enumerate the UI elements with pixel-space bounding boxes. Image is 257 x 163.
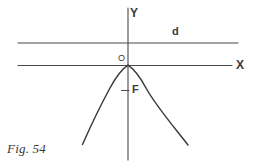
y-axis-label: Y (130, 7, 138, 19)
x-axis-label: X (236, 59, 244, 71)
parabola-figure: Y X d O F Fig. 54 (0, 0, 257, 163)
parabola-curve (83, 65, 189, 145)
directrix-label: d (172, 26, 179, 37)
figure-caption: Fig. 54 (7, 141, 46, 157)
figure-canvas (0, 0, 257, 163)
focus-label: F (132, 84, 139, 95)
origin-label: O (118, 54, 125, 63)
